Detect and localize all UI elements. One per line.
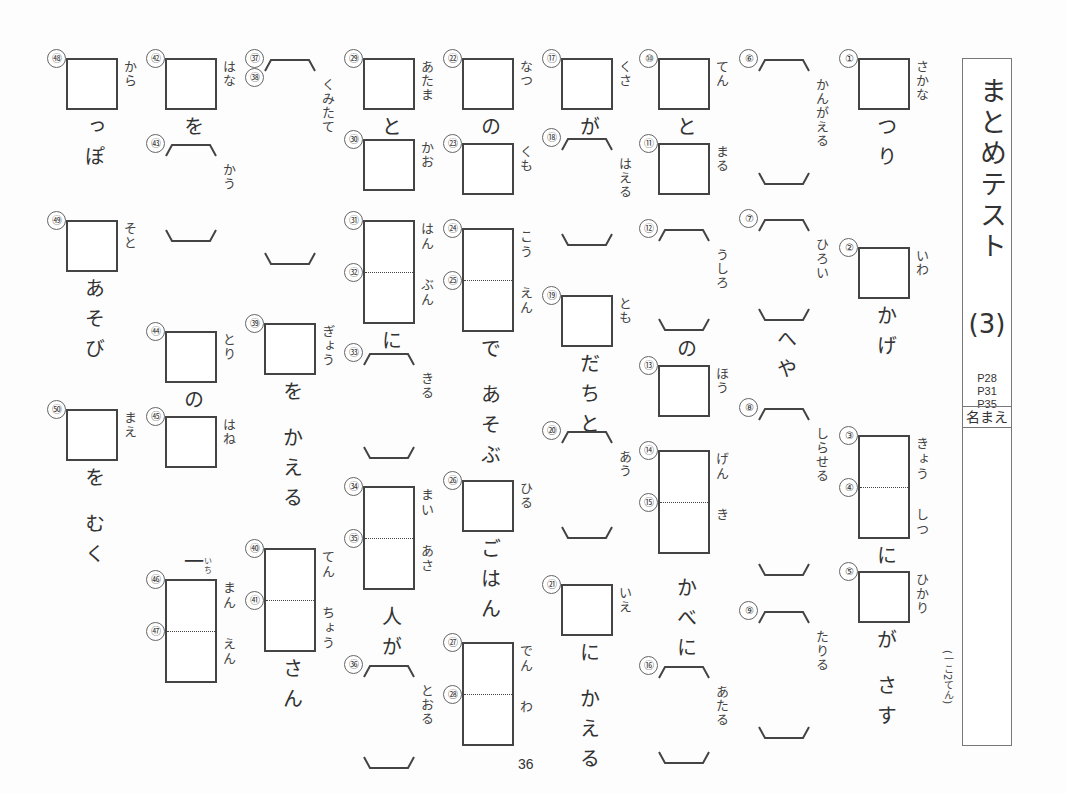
answer-box[interactable] [858, 58, 910, 110]
furigana: あたま [417, 60, 436, 102]
bracket-answer-area[interactable] [165, 157, 217, 229]
bracket-answer-area[interactable] [658, 242, 710, 318]
sentence-text: の [475, 116, 504, 146]
double-answer-box[interactable] [264, 548, 316, 652]
answer-box[interactable] [363, 58, 415, 110]
question-number: ⑰ [542, 49, 561, 68]
question-number: ⑬ [639, 356, 658, 375]
sentence-text: の [671, 338, 700, 368]
name-field[interactable] [963, 427, 1011, 745]
bracket-top [362, 664, 414, 678]
sentence-text: 人が [376, 606, 405, 666]
answer-box[interactable] [165, 331, 217, 383]
sentence-text: と [671, 116, 700, 146]
question-number: ㉞ [344, 477, 363, 496]
answer-box[interactable] [462, 143, 514, 195]
answer-box[interactable] [264, 323, 316, 375]
furigana: かお [417, 141, 436, 169]
answer-box[interactable] [462, 58, 514, 110]
furigana: きる [417, 372, 436, 400]
double-answer-box[interactable] [462, 228, 514, 332]
box-divider [365, 538, 413, 539]
worksheet-title: まとめテスト [963, 77, 1011, 263]
double-answer-box[interactable] [363, 486, 415, 590]
answer-box[interactable] [858, 571, 910, 623]
answer-box[interactable] [66, 58, 118, 110]
bracket-bottom [757, 726, 809, 740]
question-number: ㉘ [443, 685, 462, 704]
box-divider [464, 280, 512, 281]
furigana: てん [712, 60, 731, 88]
furigana: ぎょう [318, 325, 337, 367]
answer-box[interactable] [858, 247, 910, 299]
bracket-bottom [164, 229, 216, 243]
bracket-answer-area[interactable] [658, 679, 710, 751]
bracket-answer-area[interactable] [758, 232, 810, 308]
question-number: ⑤ [839, 562, 858, 581]
question-number: ㊼ [146, 622, 165, 641]
bracket-answer-area[interactable] [264, 72, 316, 252]
bracket-top [757, 407, 809, 421]
furigana: なつ [516, 60, 535, 88]
bracket-top [657, 665, 709, 679]
question-number: ㊱ [344, 655, 363, 674]
double-answer-box[interactable] [363, 220, 415, 324]
furigana: とり [219, 333, 238, 361]
answer-box[interactable] [165, 58, 217, 110]
bracket-answer-area[interactable] [758, 421, 810, 563]
answer-box[interactable] [66, 220, 118, 272]
furigana: いえ [615, 586, 634, 614]
question-number: ㉝ [344, 343, 363, 362]
furigana: くも [516, 145, 535, 173]
bracket-answer-area[interactable] [758, 624, 810, 726]
answer-box[interactable] [462, 480, 514, 532]
answer-box[interactable] [658, 143, 710, 195]
bracket-top [263, 58, 315, 72]
box-divider [860, 487, 908, 488]
answer-box[interactable] [658, 58, 710, 110]
double-answer-box[interactable] [462, 642, 514, 746]
sentence-text: を かえる [277, 381, 306, 517]
bracket-answer-area[interactable] [561, 151, 613, 233]
sentence-text: へや [771, 328, 800, 388]
answer-box[interactable] [363, 139, 415, 191]
bracket-top [657, 228, 709, 242]
furigana: とも [615, 297, 634, 325]
question-number: ① [839, 49, 858, 68]
question-number: ⑧ [739, 398, 758, 417]
double-answer-box[interactable] [658, 450, 710, 554]
answer-box[interactable] [561, 295, 613, 347]
bracket-top [757, 58, 809, 72]
points-note: (一こ2てん) [940, 650, 955, 704]
double-answer-box[interactable] [858, 435, 910, 539]
bracket-bottom [560, 233, 612, 247]
question-number: ⑲ [542, 286, 561, 305]
bracket-answer-area[interactable] [561, 444, 613, 526]
question-number: ㊾ [47, 211, 66, 230]
furigana: ひかり [912, 573, 931, 615]
answer-box[interactable] [658, 365, 710, 417]
question-number: ㉙ [344, 49, 363, 68]
name-label: 名まえ [963, 406, 1011, 428]
answer-box[interactable] [165, 416, 217, 468]
sentence-text: を [178, 116, 207, 146]
answer-box[interactable] [66, 409, 118, 461]
double-answer-box[interactable] [165, 579, 217, 683]
furigana: こう えん [516, 230, 535, 316]
answer-box[interactable] [561, 58, 613, 110]
bracket-top [560, 430, 612, 444]
box-divider [660, 502, 708, 503]
question-number: ㉑ [542, 575, 561, 594]
sentence-text: っぽ [79, 116, 108, 176]
question-number: ⑳ [542, 421, 561, 440]
answer-box[interactable] [561, 584, 613, 636]
furigana: まる [712, 145, 731, 173]
sentence-text: さん [277, 658, 306, 718]
furigana: ひろい [812, 238, 831, 280]
question-number: ㊹ [146, 322, 165, 341]
furigana: くみたて [318, 78, 337, 134]
bracket-answer-area[interactable] [363, 678, 415, 756]
bracket-answer-area[interactable] [758, 72, 810, 172]
furigana: あう [615, 450, 634, 478]
bracket-answer-area[interactable] [363, 366, 415, 446]
